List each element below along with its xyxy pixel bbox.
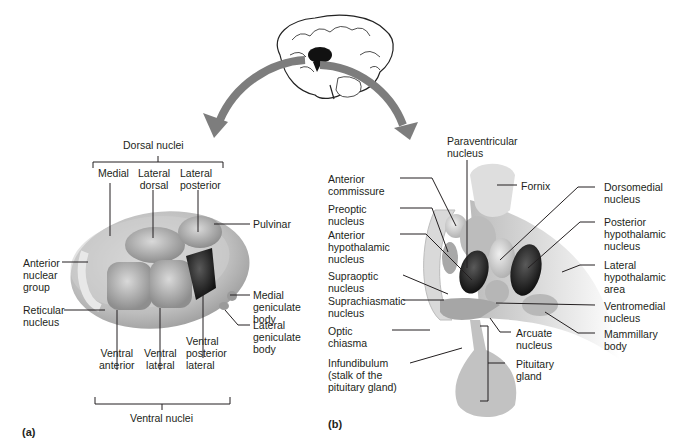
label-medial: Medial — [98, 167, 129, 179]
label-infundibulum: Infundibulum (stalk of the pituitary gla… — [328, 357, 397, 393]
panel-label-b: (b) — [328, 418, 342, 430]
label-lateral-geniculate-body: Lateral geniculate body — [253, 319, 301, 355]
label-optic-chiasma: Optic chiasma — [328, 325, 367, 349]
label-pulvinar: Pulvinar — [253, 218, 291, 230]
label-anterior-commissure: Anterior commissure — [328, 173, 385, 197]
label-preoptic-nucleus: Preoptic nucleus — [328, 203, 367, 227]
label-ventral-posterior-lateral: Ventral posterior lateral — [186, 335, 227, 371]
label-pituitary-gland: Pituitary gland — [516, 358, 554, 382]
label-lateral-dorsal: Lateral dorsal — [138, 167, 170, 191]
label-lateral-posterior: Lateral posterior — [180, 167, 221, 191]
label-lateral-hypothalamic-area: Lateral hypothalamic area — [604, 259, 666, 295]
label-suprachiasmatic-nucleus: Suprachiasmatic nucleus — [328, 295, 406, 319]
panel-label-a: (a) — [22, 426, 35, 438]
label-supraoptic-nucleus: Supraoptic nucleus — [328, 270, 378, 294]
label-mammillary-body: Mammillary body — [604, 328, 658, 352]
label-ventral-anterior: Ventral anterior — [99, 347, 135, 371]
label-ventromedial-nucleus: Ventromedial nucleus — [604, 300, 665, 324]
label-posterior-hypothalamic-nucleus: Posterior hypothalamic nucleus — [604, 216, 666, 252]
label-anterior-hypothalamic-nucleus: Anterior hypothalamic nucleus — [328, 229, 390, 265]
label-paraventricular-nucleus: Paraventricular nucleus — [447, 135, 518, 159]
label-anterior-nuclear-group: Anterior nuclear group — [23, 257, 60, 293]
label-arcuate-nucleus: Arcuate nucleus — [516, 327, 552, 351]
label-ventral-nuclei: Ventral nuclei — [130, 412, 193, 424]
label-ventral-lateral: Ventral lateral — [144, 347, 177, 371]
label-reticular-nucleus: Reticular nucleus — [23, 304, 64, 328]
label-fornix: Fornix — [521, 180, 550, 192]
label-dorsomedial-nucleus: Dorsomedial nucleus — [604, 181, 663, 205]
label-dorsal-nuclei: Dorsal nuclei — [123, 139, 184, 151]
